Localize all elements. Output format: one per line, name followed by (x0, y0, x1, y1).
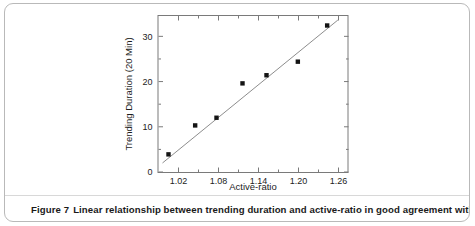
figure-divider (5, 195, 470, 196)
y-tick-label: 0 (147, 167, 152, 177)
y-tick-label: 20 (142, 77, 152, 87)
x-tick-label: 1.20 (290, 176, 308, 186)
data-point (166, 152, 170, 156)
x-axis-title: Active-ratio (229, 181, 277, 192)
scatter-chart: 1.021.081.141.201.26 0102030 Active-rati… (5, 4, 470, 192)
x-tick-label: 1.26 (330, 176, 348, 186)
chart-plot-region: 1.021.081.141.201.26 0102030 Active-rati… (5, 4, 470, 192)
y-tick-labels: 0102030 (142, 32, 152, 178)
x-tick-label: 1.08 (210, 176, 228, 186)
y-tick-label: 10 (142, 122, 152, 132)
figure-caption: Figure 7Linear relationship between tren… (31, 204, 459, 216)
data-point (264, 73, 268, 77)
data-point (193, 123, 197, 127)
data-point (296, 59, 300, 63)
caption-text: Linear relationship between trending dur… (73, 204, 470, 215)
caption-number: Figure 7 (31, 204, 69, 215)
x-tick-label: 1.02 (170, 176, 188, 186)
y-tick-label: 30 (142, 32, 152, 42)
figure-card: 1.021.081.141.201.26 0102030 Active-rati… (4, 3, 470, 222)
data-point (214, 116, 218, 120)
y-axis-title: Trending Duration (20 Min) (123, 37, 134, 150)
plot-frame (158, 16, 348, 173)
data-point (240, 81, 244, 85)
data-point (325, 23, 329, 27)
